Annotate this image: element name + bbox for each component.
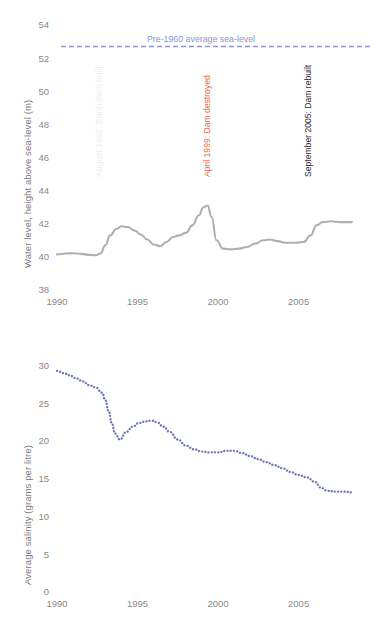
water-level-plot: 5452504846444240381990199520002005Pre-19… (0, 0, 370, 320)
y-tick-label: 20 (38, 435, 49, 446)
x-tick-label: 1990 (46, 598, 67, 609)
pre-1960-sea-level-label: Pre-1960 average sea-level (147, 34, 255, 44)
y-tick-label: 42 (38, 218, 49, 229)
y-tick-label: 44 (38, 185, 49, 196)
y-tick-label: 15 (38, 473, 49, 484)
series-line-0 (57, 206, 352, 256)
x-tick-label: 1990 (46, 296, 67, 307)
y-tick-label: 48 (38, 119, 49, 130)
y-tick-label: 52 (38, 53, 49, 64)
water-level-y-axis-label: Water level, height above sea-level (m) (22, 100, 33, 268)
annotation-1: April 1999: Dam destroyed (202, 75, 212, 177)
x-tick-label: 2000 (208, 598, 229, 609)
y-tick-label: 40 (38, 251, 49, 262)
y-tick-label: 30 (38, 360, 49, 371)
y-tick-label: 0 (44, 586, 49, 597)
x-tick-label: 2000 (208, 296, 229, 307)
y-tick-label: 10 (38, 511, 49, 522)
annotation-0: August 1992: Earth dam built (94, 66, 104, 177)
y-tick-label: 5 (44, 549, 49, 560)
series-line-0 (57, 371, 352, 493)
average-salinity-plot: 3025201510501990199520002005 (0, 330, 370, 630)
average-salinity-chart: 3025201510501990199520002005 (0, 330, 370, 630)
water-level-chart: 5452504846444240381990199520002005Pre-19… (0, 0, 370, 320)
cut-off-caption (0, 628, 370, 639)
y-tick-label: 25 (38, 398, 49, 409)
y-tick-label: 46 (38, 152, 49, 163)
y-tick-label: 50 (38, 86, 49, 97)
y-tick-label: 54 (38, 19, 49, 30)
x-tick-label: 2005 (288, 296, 309, 307)
y-tick-label: 38 (38, 284, 49, 295)
x-tick-label: 1995 (127, 296, 148, 307)
salinity-y-axis-label: Average salinity (grams per litre) (22, 445, 33, 585)
x-tick-label: 2005 (288, 598, 309, 609)
x-tick-label: 1995 (127, 598, 148, 609)
annotation-2: September 2005: Dam rebuilt (303, 64, 313, 177)
